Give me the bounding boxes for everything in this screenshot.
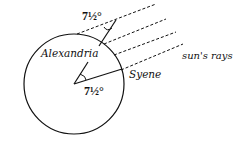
angle-top-label: 7½° [82,9,102,23]
sun-rays-label: sun's rays [182,50,233,61]
eratosthenes-diagram: 7½° Alexandria Syene sun's rays 7½° [0,0,248,145]
sun-ray-2 [104,19,166,44]
syene-radius-line [74,69,122,84]
alexandria-gnomon-line [99,20,116,46]
sun-ray-3 [114,32,176,55]
alexandria-label: Alexandria [40,47,98,59]
syene-label: Syene [129,68,161,80]
sun-ray-4 [121,44,183,70]
angle-center-label: 7½° [84,84,104,98]
center-angle-arc [80,74,86,80]
